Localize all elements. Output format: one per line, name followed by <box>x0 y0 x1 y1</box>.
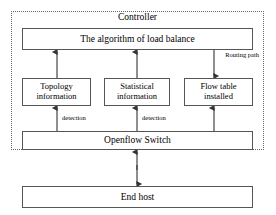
node-flowtable-line2: installed <box>200 92 236 102</box>
node-topology-information: Topology information <box>22 78 91 106</box>
node-topology-line2: information <box>36 92 76 102</box>
edge-label-detection-topology: detection <box>62 114 86 121</box>
node-endhost-label: End host <box>121 192 155 203</box>
node-algorithm-label: The algorithm of load balance <box>80 34 194 45</box>
node-openflow-switch: Openflow Switch <box>22 131 253 150</box>
node-statistical-line2: information <box>117 92 157 102</box>
node-switch-label: Openflow Switch <box>104 135 171 146</box>
node-flow-table-installed: Flow table installed <box>184 78 253 106</box>
edge-label-routing-path: Routing path <box>215 51 259 58</box>
edge-label-routing-line2: path <box>248 51 259 58</box>
node-statistical-information: Statistical information <box>104 78 170 106</box>
diagram-canvas: Controller The algorithm of load balance… <box>0 0 276 215</box>
node-end-host: End host <box>22 186 253 208</box>
node-algorithm: The algorithm of load balance <box>22 28 253 50</box>
edge-label-detection-statistical: detection <box>142 114 166 121</box>
edge-label-routing-line1: Routing <box>225 51 246 58</box>
